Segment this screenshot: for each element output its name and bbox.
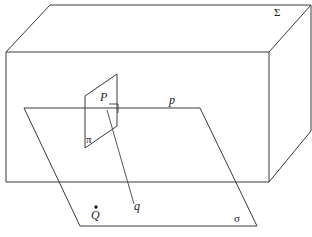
solid-top-left-diagonal-edge: [6, 5, 50, 52]
rectangular-solid-group: [6, 5, 311, 182]
solid-front-face: [6, 52, 269, 182]
figure-canvas: [0, 0, 312, 237]
label-line-p: p: [169, 94, 175, 106]
label-line-q: q: [134, 200, 140, 212]
plane-sigma-outline: [24, 108, 257, 226]
plane-sigma-group: [24, 108, 257, 226]
label-point-q: Q: [91, 209, 100, 221]
line-q-stroke: [107, 110, 134, 204]
label-solid-sigma-capital: Σ: [274, 7, 280, 18]
geometry-figure: Σ P p π q Q σ: [0, 0, 312, 237]
label-plane-sigma: σ: [234, 213, 240, 224]
label-point-p: P: [100, 91, 107, 103]
label-plane-pi: π: [86, 134, 92, 145]
solid-bottom-right-diagonal-edge: [269, 131, 311, 182]
